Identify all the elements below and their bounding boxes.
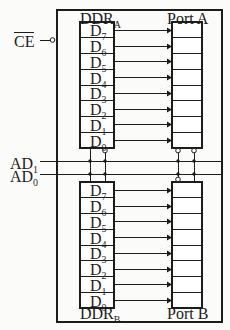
junction-dot-1 <box>88 172 91 175</box>
junction-dot-5 <box>176 172 179 175</box>
junction-dot-4 <box>176 159 179 162</box>
block-caption-ddr-a: DDRA <box>80 10 121 28</box>
bubble-port-bus-left-bottom <box>176 177 181 182</box>
junction-dot-2 <box>103 159 106 162</box>
block-caption-port-b: Port B <box>167 305 208 323</box>
junction-dot-6 <box>192 159 195 162</box>
signal-label-ce: CE <box>14 33 34 51</box>
cell-label-ddr-a-D0: D0 <box>90 133 107 151</box>
bubble-port-bus-right-top <box>192 148 197 153</box>
signal-label-ad0: AD0 <box>10 168 38 186</box>
block-caption-port-a: Port A <box>167 10 208 28</box>
block-caption-ddr-b: DDRB <box>80 305 120 323</box>
junction-dot-3 <box>103 172 106 175</box>
junction-dot-0 <box>88 159 91 162</box>
bubble-port-bus-left-top <box>176 148 181 153</box>
junction-dot-7 <box>192 172 195 175</box>
ce-terminal-bubble <box>50 38 55 43</box>
